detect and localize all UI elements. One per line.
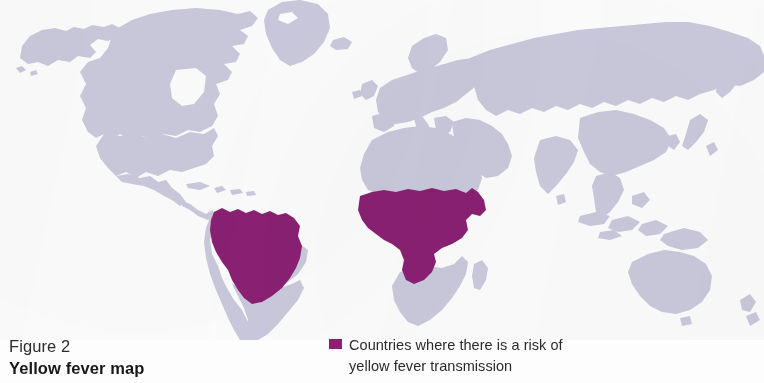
region-greenland (264, 0, 330, 66)
region-iceland (330, 37, 352, 50)
world-map (0, 0, 764, 340)
risk-region-africa (358, 188, 486, 284)
region-australia (628, 250, 712, 314)
region-japan (682, 114, 718, 156)
figure-number: Figure 2 (9, 336, 309, 357)
yellow-fever-figure: Figure 2 Yellow fever map Countries wher… (0, 0, 764, 383)
region-korea (668, 134, 680, 150)
region-iberia (372, 112, 396, 132)
region-tasmania (680, 316, 692, 326)
map-legend: Countries where there is a risk of yello… (329, 335, 604, 377)
region-new-zealand (740, 294, 760, 326)
region-british-isles (352, 80, 378, 100)
legend-swatch-risk (329, 339, 342, 349)
region-east-asia (578, 110, 672, 176)
legend-label-risk: Countries where there is a risk of yello… (349, 335, 604, 377)
region-southeast-asia (592, 172, 624, 218)
land-layer (16, 0, 764, 340)
region-mexico (116, 174, 186, 206)
region-united-states (96, 128, 218, 178)
world-map-graphic (0, 0, 764, 340)
region-india (534, 136, 578, 194)
region-aleutians (16, 66, 38, 76)
region-sri-lanka (556, 194, 566, 205)
figure-caption: Figure 2 Yellow fever map (9, 336, 309, 380)
figure-title: Yellow fever map (9, 358, 309, 379)
region-caribbean-islands (186, 182, 256, 196)
region-russia-siberia (470, 22, 764, 116)
region-madagascar (472, 260, 488, 290)
